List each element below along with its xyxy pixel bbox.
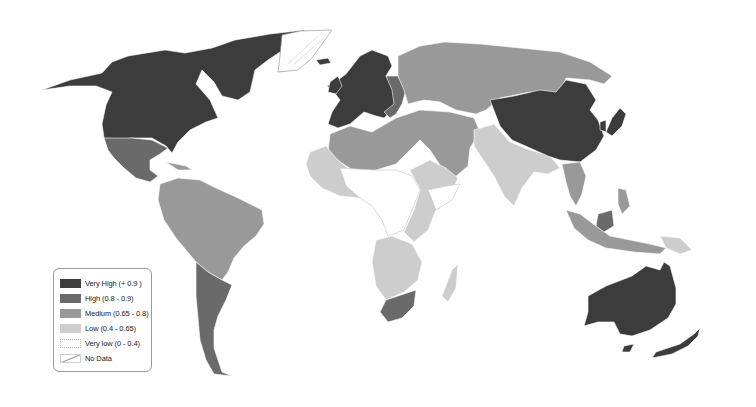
legend-item-high: High (0.8 - 0.9) <box>60 291 151 306</box>
region-greenland <box>278 30 332 72</box>
region-southeast-asia <box>562 162 586 206</box>
region-southern-cone <box>196 262 232 376</box>
legend-item-very-high: Very High (+ 0.9 ) <box>60 276 151 291</box>
region-philippines <box>618 188 630 214</box>
legend-label: No Data <box>85 354 112 363</box>
region-madagascar <box>442 264 458 302</box>
region-north-america <box>42 30 305 153</box>
region-papua <box>660 236 692 254</box>
legend-label: High (0.8 - 0.9) <box>85 294 133 303</box>
region-japan <box>606 108 626 136</box>
region-new-zealand <box>652 328 700 358</box>
region-malaysia-indonesia <box>566 210 666 254</box>
legend-swatch-no-data-hatch-icon <box>60 354 81 363</box>
legend-swatch-very-high <box>60 279 81 288</box>
region-tasmania <box>622 344 634 352</box>
region-korea <box>600 120 606 132</box>
legend-item-low: Low (0.4 - 0.65) <box>60 321 151 336</box>
legend-label: Very High (+ 0.9 ) <box>85 279 142 288</box>
region-australia <box>584 262 676 336</box>
region-caribbean <box>166 162 192 170</box>
legend-item-no-data: No Data <box>60 351 151 366</box>
legend-label: Medium (0.65 - 0.8) <box>85 309 149 318</box>
legend-swatch-medium <box>60 309 81 318</box>
legend-swatch-low <box>60 324 81 333</box>
legend-label: Very low (0 - 0.4) <box>85 339 140 348</box>
region-mexico-central-america <box>104 138 168 182</box>
legend-swatch-very-low <box>60 339 81 348</box>
map-legend: Very High (+ 0.9 ) High (0.8 - 0.9) Medi… <box>53 268 152 372</box>
region-iceland <box>316 58 331 65</box>
legend-item-very-low: Very low (0 - 0.4) <box>60 336 151 351</box>
legend-item-medium: Medium (0.65 - 0.8) <box>60 306 151 321</box>
legend-label: Low (0.4 - 0.65) <box>85 324 136 333</box>
region-south-america <box>158 178 264 280</box>
legend-swatch-high <box>60 294 81 303</box>
